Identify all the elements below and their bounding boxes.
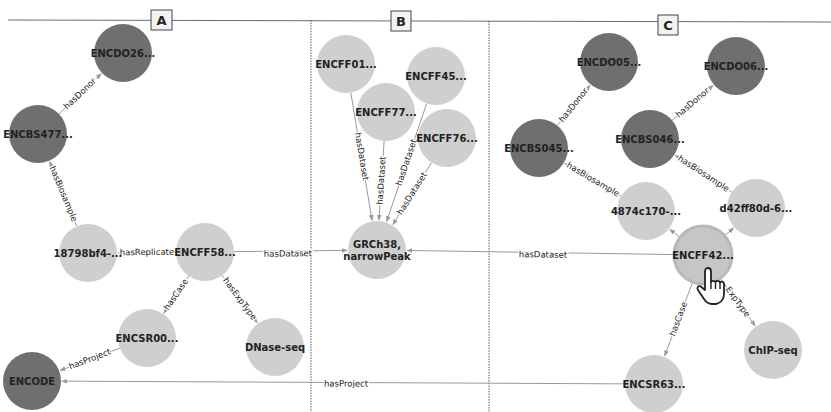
node-label: d42ff80d-6... bbox=[720, 203, 793, 214]
graph-node-c_r2[interactable]: d42ff80d-6... bbox=[720, 179, 793, 237]
node-label: ENCFF77... bbox=[355, 107, 417, 118]
graph-node-b_ds[interactable]: GRCh38,narrowPeak bbox=[343, 221, 411, 279]
node-label: narrowPeak bbox=[343, 251, 411, 262]
edge-a_case-to-encode: hasProject bbox=[60, 346, 120, 371]
node-label: 18798bf4-... bbox=[54, 248, 123, 259]
node-label: ENCFF58... bbox=[174, 247, 236, 258]
node-circle[interactable] bbox=[348, 221, 406, 279]
graph-node-a_case[interactable]: ENCSR00... bbox=[116, 309, 179, 367]
node-label: ENCDO06... bbox=[704, 61, 769, 72]
edge-c_bs045-to-c_do05: hasDonor bbox=[557, 85, 591, 125]
edge-label: hasDataset bbox=[264, 248, 313, 259]
edge-a_file-to-b_ds: hasDataset bbox=[234, 248, 347, 259]
graph-node-a_bios[interactable]: ENCBS477... bbox=[3, 105, 73, 163]
edge-label: hasProject bbox=[324, 378, 369, 388]
edge-label: hasBiosample bbox=[565, 160, 621, 199]
edge-a_rep-to-a_bios: hasBiosample bbox=[48, 162, 80, 227]
edge-label: hasCase bbox=[162, 277, 190, 312]
graph-node-c_file[interactable]: ENCFF42... bbox=[672, 226, 734, 284]
edge-label: hasDataset bbox=[353, 132, 371, 182]
edge-label: hasDonor bbox=[62, 75, 99, 111]
node-label: ENCBS477... bbox=[3, 129, 73, 140]
node-label: ENCBS046... bbox=[615, 134, 685, 145]
edge-a_file-to-a_case: hasCase bbox=[162, 276, 190, 313]
edge-label: hasDataset bbox=[374, 155, 387, 205]
edge-c_file-to-c_exp: ExpType bbox=[720, 278, 755, 326]
edge-label: hasBiosample bbox=[48, 164, 80, 223]
edge-label: hasDonor bbox=[557, 86, 591, 124]
graph-node-c_exp[interactable]: ChIP-seq bbox=[744, 321, 802, 379]
panel-tags: A B C bbox=[151, 10, 678, 35]
graph-node-a_file[interactable]: ENCFF58... bbox=[174, 223, 236, 281]
panel-tag-a: A bbox=[151, 10, 172, 30]
node-label: ENCFF42... bbox=[672, 250, 734, 261]
graph-node-c_case[interactable]: ENCSR63... bbox=[623, 355, 686, 412]
node-label: ENCSR63... bbox=[623, 379, 686, 390]
graph-node-a_rep[interactable]: 18798bf4-... bbox=[54, 224, 123, 282]
node-label: GRCh38, bbox=[353, 239, 401, 250]
edge-a_file-to-a_rep: hasReplicate bbox=[118, 247, 176, 257]
graph-node-c_do06[interactable]: ENCDO06... bbox=[704, 37, 769, 95]
edge-c_r2-to-c_bs046: hasBiosample bbox=[675, 153, 732, 194]
graph-node-a_exp[interactable]: DNase-seq bbox=[245, 318, 305, 376]
edge-a_bios-to-a_donor: hasDonor bbox=[59, 74, 101, 114]
knowledge-graph: hasDonorhasBiosamplehasReplicatehasDatas… bbox=[0, 0, 831, 412]
edge-label: hasProject bbox=[67, 346, 112, 371]
panel-tag-b: B bbox=[391, 11, 411, 31]
graph-node-b_f45[interactable]: ENCFF45... bbox=[405, 47, 467, 105]
edge-c_file-to-c_r2 bbox=[725, 228, 734, 236]
edge-label: ExpType bbox=[724, 285, 753, 319]
graph-node-b_f76[interactable]: ENCFF76... bbox=[416, 109, 478, 167]
edge-c_bs046-to-c_do06: hasDonor bbox=[672, 85, 713, 120]
edge-a_file-to-a_exp: hasExpType bbox=[221, 275, 259, 323]
node-label: ENCODE bbox=[9, 376, 55, 387]
graph-node-c_bs045[interactable]: ENCBS045... bbox=[504, 119, 574, 177]
node-label: ENCBS045... bbox=[504, 143, 574, 154]
node-label: ENCFF01... bbox=[315, 59, 377, 70]
edge-line bbox=[670, 229, 680, 237]
panel-tag-b-label: B bbox=[396, 14, 406, 29]
edge-label: hasCase bbox=[667, 300, 689, 337]
node-label: ENCFF45... bbox=[405, 71, 467, 82]
edge-c_r1-to-c_bs045: hasBiosample bbox=[565, 160, 621, 199]
top-border bbox=[8, 20, 831, 22]
node-label: DNase-seq bbox=[245, 342, 305, 353]
edge-label: hasReplicate bbox=[120, 247, 174, 257]
panel-tag-a-label: A bbox=[156, 13, 166, 28]
graph-node-b_f77[interactable]: ENCFF77... bbox=[355, 83, 417, 141]
graph-node-encode[interactable]: ENCODE bbox=[3, 352, 61, 410]
edge-label: hasBiosample bbox=[676, 153, 731, 194]
edge-c_case-to-encode: hasProject bbox=[62, 378, 625, 388]
nodes-layer: ENCDO26...ENCBS477...18798bf4-...ENCFF58… bbox=[3, 24, 802, 412]
node-label: ChIP-seq bbox=[748, 345, 797, 356]
edge-label: hasExpType bbox=[221, 276, 259, 322]
node-label: ENCFF76... bbox=[416, 133, 478, 144]
node-label: ENCDO05... bbox=[577, 57, 642, 68]
panel-tag-c-label: C bbox=[663, 18, 673, 33]
graph-node-c_r1[interactable]: 4874c170-... bbox=[611, 182, 681, 240]
panel-tag-c: C bbox=[658, 15, 678, 35]
graph-node-a_donor[interactable]: ENCDO26... bbox=[91, 24, 156, 82]
edge-c_file-to-c_r1 bbox=[670, 229, 680, 237]
edge-label: hasDonor bbox=[673, 85, 711, 119]
graph-node-c_do05[interactable]: ENCDO05... bbox=[577, 33, 642, 91]
graph-node-b_f01[interactable]: ENCFF01... bbox=[315, 35, 377, 93]
edge-c_file-to-b_ds: hasDataset bbox=[407, 249, 674, 260]
edge-b_f77-to-b_ds: hasDataset bbox=[374, 141, 387, 220]
edge-line bbox=[725, 228, 734, 236]
node-label: 4874c170-... bbox=[611, 206, 681, 217]
edge-label: hasDataset bbox=[519, 249, 568, 260]
node-label: ENCDO26... bbox=[91, 48, 156, 59]
edge-c_file-to-c_case: hasCase bbox=[665, 282, 693, 356]
node-label: ENCSR00... bbox=[116, 333, 179, 344]
